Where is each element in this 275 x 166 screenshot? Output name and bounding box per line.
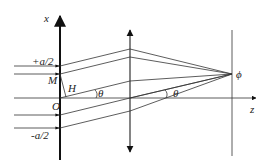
- focal-point-label: ϕ: [236, 68, 242, 80]
- bottom-slit-label: -a/2: [31, 129, 49, 141]
- diffracted-ray: [60, 49, 232, 74]
- theta-label-2: θ: [173, 87, 179, 99]
- point-h-label: H: [67, 82, 77, 94]
- origin-label: O: [52, 100, 60, 112]
- diffraction-diagram: x z +a/2 -a/2 M H O θ θ ϕ: [0, 0, 275, 166]
- angle-arc: [165, 90, 167, 98]
- theta-label-1: θ: [98, 87, 104, 99]
- point-m-label: M: [47, 74, 58, 86]
- diffracted-ray: [60, 74, 232, 128]
- x-axis-label: x: [43, 12, 49, 24]
- top-slit-label: +a/2: [32, 55, 54, 67]
- z-axis-label: z: [249, 103, 255, 115]
- angle-arc: [95, 90, 97, 98]
